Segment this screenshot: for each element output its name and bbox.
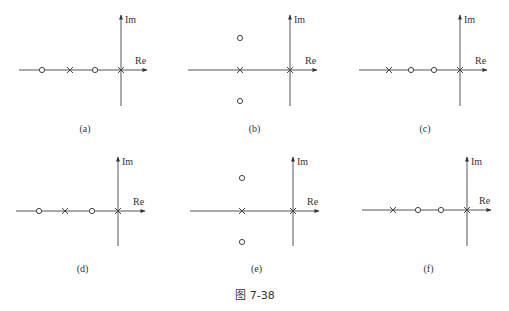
- real-axis-label: Re: [133, 196, 145, 207]
- imaginary-axis-label: Im: [297, 156, 308, 167]
- imaginary-axis-label: Im: [294, 14, 305, 25]
- zero-marker-icon: [415, 207, 420, 212]
- zero-marker-icon: [237, 98, 242, 103]
- zero-marker-icon: [92, 67, 97, 72]
- panel-label: (f): [424, 263, 434, 275]
- zero-marker-icon: [36, 208, 41, 213]
- pole-zero-plot-d: ReIm(d): [16, 156, 145, 275]
- pole-zero-plot-c: ReIm(c): [359, 14, 487, 135]
- zero-marker-icon: [438, 207, 443, 212]
- pole-zero-plot-f: ReIm(f): [362, 156, 491, 275]
- panel-label: (a): [79, 123, 90, 135]
- imaginary-axis-label: Im: [471, 156, 482, 167]
- panel-label: (e): [251, 263, 262, 275]
- zero-marker-icon: [89, 208, 94, 213]
- real-axis-label: Re: [479, 195, 491, 206]
- panel-label: (b): [249, 123, 261, 135]
- imaginary-axis-label: Im: [125, 14, 136, 25]
- panel-label: (c): [419, 123, 430, 135]
- pole-zero-diagram-figure: ReIm(a)ReIm(b)ReIm(c)ReIm(d)ReIm(e)ReIm(…: [0, 0, 509, 311]
- real-axis-label: Re: [475, 55, 487, 66]
- imaginary-axis-label: Im: [464, 14, 475, 25]
- pole-zero-plot-b: ReIm(b): [188, 14, 317, 135]
- imaginary-axis-label: Im: [122, 156, 133, 167]
- zero-marker-icon: [239, 175, 244, 180]
- zero-marker-icon: [408, 67, 413, 72]
- panel-label: (d): [77, 263, 89, 275]
- zero-marker-icon: [39, 67, 44, 72]
- figure-caption: 图 7-38: [235, 289, 274, 302]
- real-axis-label: Re: [135, 55, 147, 66]
- real-axis-label: Re: [305, 55, 317, 66]
- pole-zero-plot-a: ReIm(a): [19, 14, 147, 135]
- zero-marker-icon: [239, 239, 244, 244]
- real-axis-label: Re: [307, 196, 319, 207]
- pole-zero-plot-e: ReIm(e): [190, 156, 319, 275]
- zero-marker-icon: [237, 35, 242, 40]
- zero-marker-icon: [431, 67, 436, 72]
